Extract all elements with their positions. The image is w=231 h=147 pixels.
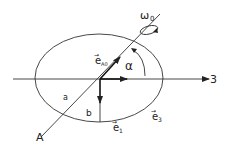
diagram-canvas: ω 0 → e A0 α 3 a b A → e 1 → e 3: [0, 0, 231, 147]
ellipse-outline: [35, 34, 163, 122]
label-e1-sub: 1: [119, 127, 123, 134]
label-axis-3: 3: [210, 73, 217, 86]
alpha-arc: [133, 50, 145, 76]
label-alpha: α: [125, 59, 133, 73]
label-a: a: [63, 93, 68, 102]
label-omega: ω: [140, 9, 149, 22]
label-b: b: [86, 108, 92, 118]
axis-A-line: [41, 14, 160, 137]
label-e3-sub: 3: [158, 116, 162, 123]
label-e-A0-sub: A0: [101, 61, 108, 67]
label-A: A: [36, 131, 44, 144]
label-omega-sub: 0: [150, 15, 154, 23]
